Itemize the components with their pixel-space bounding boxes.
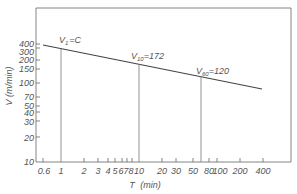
x-tick-8: 8	[128, 166, 133, 176]
x-tick-100: 100	[212, 166, 227, 176]
y-tick-20: 20	[23, 133, 34, 143]
annotation-v1: V1=C	[59, 35, 82, 46]
y-tick-labels: 400 300 200 150 100 70 50 40 30 20 10	[18, 39, 34, 167]
y-tick-30: 30	[24, 117, 34, 127]
tool-life-chart: 400 300 200 150 100 70 50 40 30 20 10 0.…	[0, 0, 297, 194]
x-tick-200: 200	[231, 166, 247, 176]
y-tick-150: 150	[19, 64, 34, 74]
x-ticks	[43, 158, 263, 162]
x-tick-3: 3	[95, 166, 100, 176]
x-tick-1: 1	[58, 166, 63, 176]
x-tick-4: 4	[105, 166, 110, 176]
x-axis-title-unit: (min)	[140, 180, 161, 190]
plot-frame	[36, 8, 291, 162]
y-axis-title: V (m/min)	[4, 67, 14, 106]
x-axis-title-symbol: T	[129, 180, 136, 190]
x-tick-10: 10	[134, 166, 144, 176]
x-tick-0.6: 0.6	[38, 166, 51, 176]
x-tick-30: 30	[171, 166, 181, 176]
x-tick-50: 50	[188, 166, 198, 176]
reference-lines	[61, 49, 201, 162]
y-ticks	[36, 44, 40, 137]
annotation-v60: V60=120	[196, 66, 229, 77]
y-tick-10: 10	[24, 157, 34, 167]
x-tick-2: 2	[80, 166, 86, 176]
x-tick-400: 400	[255, 166, 270, 176]
x-tick-20: 20	[156, 166, 167, 176]
svg-text:T (min): T (min)	[129, 180, 161, 190]
x-tick-labels: 0.6 1 2 3 4 5 6 7 8 10 20 30 50 80 100 2…	[38, 166, 271, 176]
x-axis-title: T (min)	[129, 180, 161, 190]
annotation-v10: V10=172	[131, 51, 164, 62]
y-tick-100: 100	[19, 78, 34, 88]
